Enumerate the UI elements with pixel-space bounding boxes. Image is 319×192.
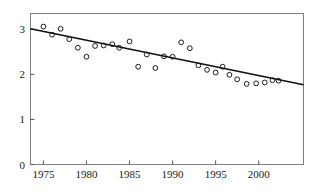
plot-frame: [31, 14, 304, 165]
x-tick-label: 1985: [119, 168, 141, 180]
y-tick-label: 1: [8, 113, 25, 125]
x-tick-label: 1980: [75, 168, 97, 180]
x-tick-label: 1990: [162, 168, 184, 180]
y-axis-ticks: [31, 29, 35, 164]
y-tick-label: 3: [8, 23, 25, 35]
scatter-chart: 197519801985199019952000 0123: [0, 0, 319, 192]
plot-area: [0, 0, 319, 192]
y-tick-label: 0: [8, 159, 25, 171]
x-tick-label: 2000: [248, 168, 270, 180]
trend-line: [31, 29, 304, 85]
x-tick-label: 1995: [205, 168, 227, 180]
x-axis-ticks: [43, 161, 258, 165]
y-tick-label: 2: [8, 68, 25, 80]
x-tick-label: 1975: [32, 168, 54, 180]
